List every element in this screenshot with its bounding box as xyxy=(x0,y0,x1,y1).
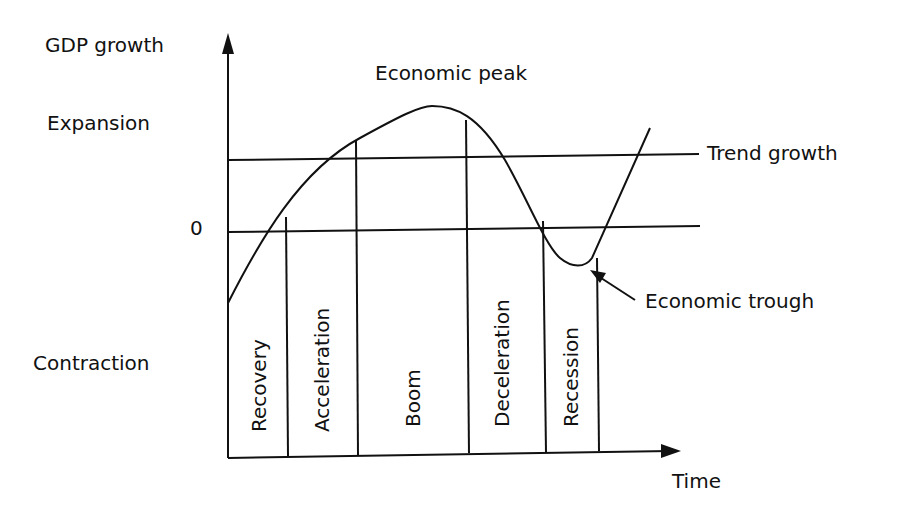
contraction-label: Contraction xyxy=(33,351,150,375)
x-axis-label: Time xyxy=(671,469,721,493)
phase-label-deceleration: Deceleration xyxy=(490,299,514,427)
peak-label: Economic peak xyxy=(375,61,527,85)
phase-label-acceleration: Acceleration xyxy=(310,308,334,432)
phase-divider xyxy=(356,141,358,455)
business-cycle-diagram: GDP growth Expansion 0 Contraction Econo… xyxy=(0,0,897,521)
y-axis-label: GDP growth xyxy=(45,33,164,57)
phase-label-recession: Recession xyxy=(559,327,583,427)
trough-pointer xyxy=(598,276,635,300)
phase-divider xyxy=(286,217,288,456)
zero-line xyxy=(228,226,700,232)
phase-divider xyxy=(543,221,546,452)
expansion-label: Expansion xyxy=(47,111,150,135)
trough-label: Economic trough xyxy=(645,289,814,313)
x-axis-arrow-icon xyxy=(661,444,681,458)
zero-label: 0 xyxy=(190,216,203,240)
y-axis-arrow-icon xyxy=(222,33,234,54)
trend-growth-line xyxy=(228,154,699,160)
phase-divider xyxy=(597,258,599,451)
x-axis xyxy=(228,451,670,458)
trend-growth-label: Trend growth xyxy=(706,141,838,165)
phase-label-boom: Boom xyxy=(401,369,425,427)
phase-divider xyxy=(466,120,469,453)
phase-label-recovery: Recovery xyxy=(247,339,271,432)
gdp-growth-curve xyxy=(228,106,650,303)
